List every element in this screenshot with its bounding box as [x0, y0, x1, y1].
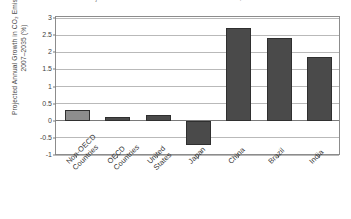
y-tick-label: 2	[48, 48, 52, 56]
y-tick-mark	[53, 155, 56, 156]
y-tick-label: 0.5	[42, 100, 52, 108]
y-tick-mark	[53, 69, 56, 70]
y-tick-label: -0.5	[40, 134, 52, 142]
bar	[267, 38, 292, 121]
y-axis-title: Projected Annual Growth in CO₂ Emissions…	[10, 0, 32, 118]
y-tick-mark	[53, 120, 56, 121]
bar	[307, 57, 332, 120]
plot-area: 32.521.510.50-0.5-1	[55, 16, 340, 155]
bar	[186, 121, 211, 145]
y-tick-label: -1	[46, 151, 52, 159]
y-tick-mark	[53, 35, 56, 36]
figure-caption: Table 2. Projected Sources of Growth in …	[56, 0, 346, 2]
gridline	[56, 52, 339, 53]
y-tick-label: 0	[48, 117, 52, 125]
bar	[146, 115, 171, 121]
gridline	[56, 103, 339, 104]
y-tick-mark	[53, 86, 56, 87]
gridline	[56, 86, 339, 87]
gridline	[56, 35, 339, 36]
y-tick-label: 1.5	[42, 65, 52, 73]
y-tick-label: 2.5	[42, 31, 52, 39]
gridline	[56, 69, 339, 70]
bar	[105, 117, 130, 120]
bar	[65, 110, 90, 120]
y-tick-label: 1	[48, 83, 52, 91]
y-tick-label: 3	[48, 14, 52, 22]
y-tick-mark	[53, 18, 56, 19]
bar	[226, 28, 251, 121]
gridline	[56, 18, 339, 19]
bar-chart: Table 2. Projected Sources of Growth in …	[0, 0, 351, 219]
y-tick-mark	[53, 103, 56, 104]
y-tick-mark	[53, 52, 56, 53]
y-tick-mark	[53, 137, 56, 138]
